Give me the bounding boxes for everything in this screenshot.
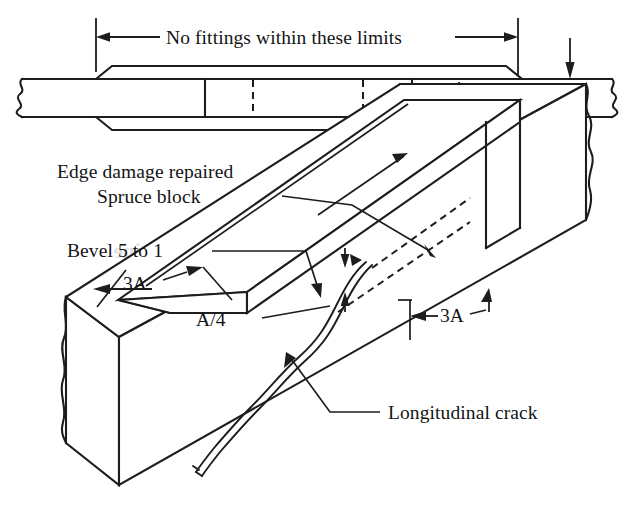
iso-view-group: 3A A/4 3A (57, 84, 593, 485)
dim-arrowhead-right (504, 32, 518, 42)
spar-repair-diagram: epine ano No fittings within these limit… (0, 0, 637, 529)
edge-damage-label: Edge damage repaired (57, 161, 233, 182)
crack-terminus (196, 472, 202, 476)
spruce-block-label: Spruce block (97, 186, 201, 207)
dim-arrowhead-left (96, 32, 110, 42)
longitudinal-crack-label: Longitudinal crack (388, 402, 538, 423)
no-fittings-label: No fittings within these limits (166, 27, 402, 48)
break-symbol-right (612, 79, 618, 117)
bevel-label: Bevel 5 to 1 (67, 240, 163, 261)
upper-block-outline (96, 66, 522, 79)
iso-3a-right-arrowhead-right (481, 288, 492, 302)
iso-3a-right-arm-right (470, 310, 486, 314)
figure-root: epine ano No fittings within these limit… (0, 0, 637, 529)
break-symbol-left (17, 79, 23, 117)
a-arrowhead-upper (565, 62, 574, 79)
iso-3a-right-label: 3A (440, 305, 464, 326)
upper-block-top-view (96, 66, 522, 79)
iso-3a-left-label: 3A (123, 273, 147, 294)
iso-a4-label: A/4 (196, 309, 226, 330)
